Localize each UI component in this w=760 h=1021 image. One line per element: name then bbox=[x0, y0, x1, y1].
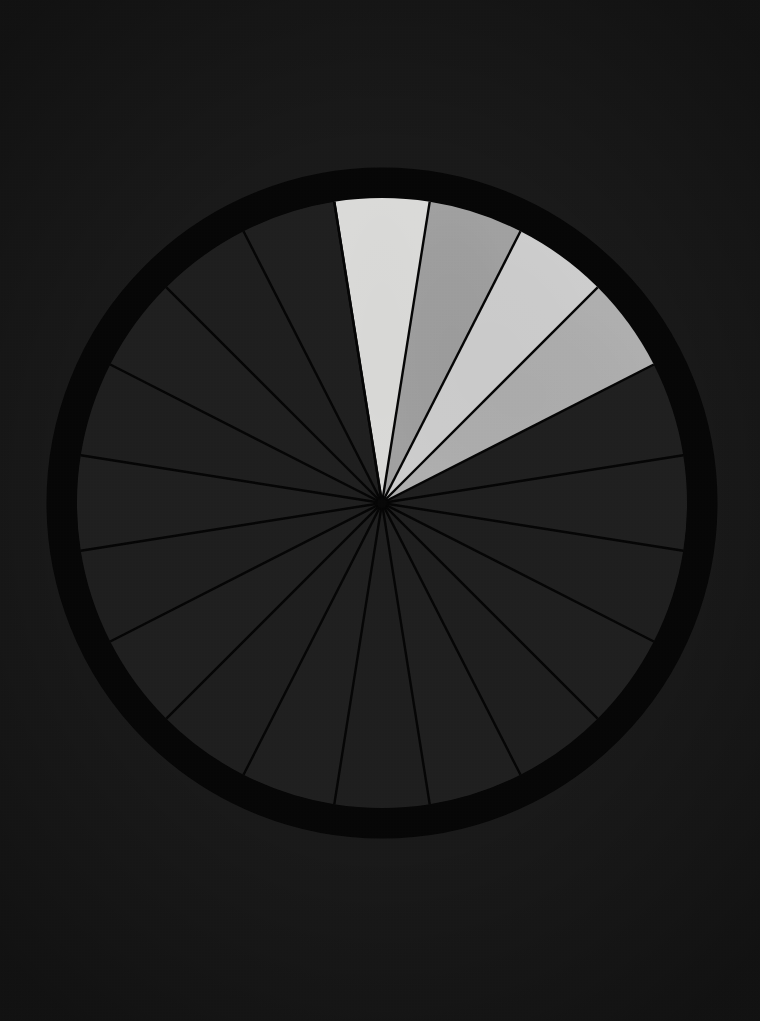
chart-canvas bbox=[0, 0, 760, 1021]
center-hub bbox=[377, 498, 387, 508]
pie-chart[interactable] bbox=[0, 0, 760, 1021]
